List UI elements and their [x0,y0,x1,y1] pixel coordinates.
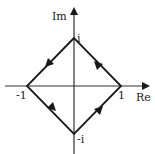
complex-plane-diagram: Im Re i -i -1 1 [0,0,155,154]
real-axis-label: Re [136,91,151,104]
arrow-minusi-to-1-icon [94,106,103,115]
vertex-label-minus-i: -i [77,133,85,146]
vertex-label-minus-1: -1 [16,89,27,102]
vertex-label-1: 1 [118,89,125,102]
vertex-label-i: i [77,32,81,45]
arrow-minus1-to-minusi-icon [47,102,56,111]
imaginary-axis-label: Im [52,10,67,23]
